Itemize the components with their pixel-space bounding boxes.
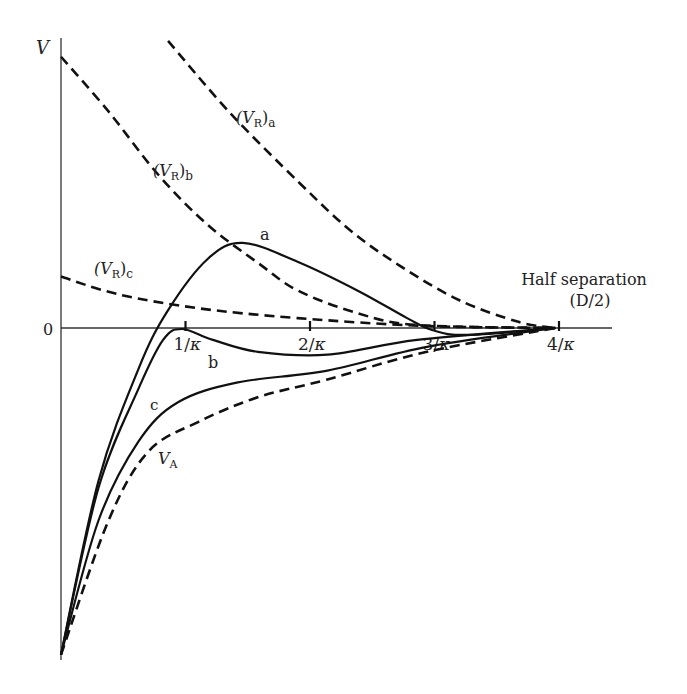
label-v-a: VA [158, 449, 179, 471]
label-vr-a: (VR)a [236, 108, 276, 130]
x-tick-label: 4/κ [547, 334, 575, 354]
chart: V 0 Half separation (D/2) 1/κ2/κ3/κ4/κ (… [0, 0, 687, 694]
label-vr-c: (VR)c [94, 259, 133, 281]
x-tick-label: 2/κ [298, 334, 326, 354]
series-line-vr-c [61, 277, 555, 328]
x-ticks: 1/κ2/κ3/κ4/κ [174, 321, 575, 354]
label-curve-b: b [208, 353, 218, 372]
label-curve-c: c [150, 396, 158, 414]
y-axis-label: V [36, 37, 51, 58]
label-curve-a: a [260, 225, 270, 244]
series-line-vr-b [61, 57, 555, 328]
series-line-curve-a [61, 243, 555, 655]
y-zero-label: 0 [43, 320, 53, 339]
x-axis-label-line1: Half separation [521, 270, 647, 289]
label-vr-b: (VR)b [153, 161, 193, 183]
x-tick-label: 1/κ [174, 334, 202, 354]
series-line-vr-a [168, 41, 555, 328]
x-axis-label-line2: (D/2) [570, 291, 611, 310]
